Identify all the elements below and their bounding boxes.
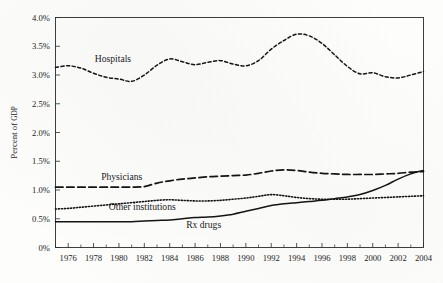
x-tick-label: 1976: [60, 253, 78, 263]
x-tick-label: 1996: [313, 253, 331, 263]
x-axis-tick-labels: 1976197819801982198419861988199019921994…: [60, 253, 433, 263]
y-tick-label: 1.0%: [32, 185, 50, 195]
y-tick-label: 0%: [39, 243, 50, 253]
x-tick-label: 1982: [136, 253, 153, 263]
series-inline-labels: HospitalsPhysiciansOther institutionsRx …: [95, 53, 222, 230]
chart-figure: 0%0.5%1.0%1.5%2.0%2.5%3.0%3.5%4.0% 19761…: [0, 0, 443, 283]
y-tick-label: 0.5%: [32, 214, 50, 224]
x-tick-label: 1986: [186, 253, 204, 263]
y-axis-tick-labels: 0%0.5%1.0%1.5%2.0%2.5%3.0%3.5%4.0%: [32, 13, 50, 253]
y-axis-title-text: Percent of GDP: [9, 106, 19, 159]
y-tick-label: 3.5%: [32, 41, 50, 51]
y-tick-label: 1.5%: [32, 156, 50, 166]
x-tick-label: 1984: [161, 253, 179, 263]
series-label-other-institutions: Other institutions: [109, 201, 176, 212]
x-tick-label: 2002: [390, 253, 407, 263]
series-label-physicians: Physicians: [101, 171, 142, 182]
x-tick-label: 1994: [288, 253, 306, 263]
y-tick-label: 2.5%: [32, 99, 50, 109]
x-tick-label: 1990: [237, 253, 254, 263]
x-tick-label: 1988: [212, 253, 229, 263]
x-tick-label: 1980: [110, 253, 127, 263]
y-tick-label: 4.0%: [32, 13, 50, 23]
line-chart: 0%0.5%1.0%1.5%2.0%2.5%3.0%3.5%4.0% 19761…: [0, 0, 443, 283]
x-tick-label: 1978: [85, 253, 102, 263]
y-tick-label: 3.0%: [32, 70, 50, 80]
x-tick-label: 2004: [415, 253, 433, 263]
x-tick-label: 2000: [364, 253, 381, 263]
x-tick-label: 1998: [339, 253, 356, 263]
series-label-hospitals: Hospitals: [95, 53, 132, 64]
x-tick-label: 1992: [263, 253, 280, 263]
y-tick-label: 2.0%: [32, 128, 50, 138]
series-label-rx-drugs: Rx drugs: [186, 219, 221, 230]
y-axis-title: Percent of GDP: [9, 106, 19, 159]
